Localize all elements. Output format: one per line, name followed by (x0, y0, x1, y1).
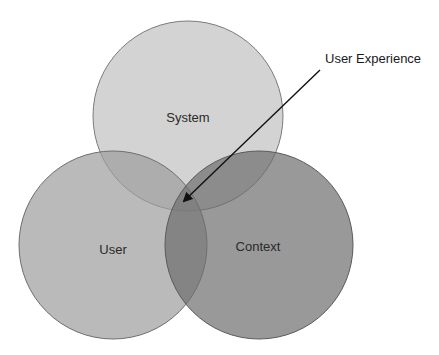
user-label: User (99, 242, 127, 257)
venn-diagram: System User Context User Experience (0, 0, 439, 355)
system-label: System (166, 110, 209, 125)
user-experience-label: User Experience (325, 51, 421, 66)
context-label: Context (236, 239, 281, 254)
circles-layer (19, 21, 353, 339)
